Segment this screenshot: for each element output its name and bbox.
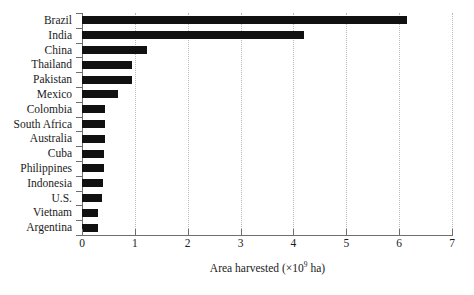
bar [82,224,98,232]
bar-row [82,43,452,58]
y-axis-label: Brazil [0,13,72,28]
y-axis-label: Vietnam [0,205,72,220]
y-axis-tick [76,57,82,58]
y-axis-category-labels: BrazilIndiaChinaThailandPakistanMexicoCo… [0,13,72,235]
y-axis-tick [76,13,82,14]
x-axis-tick-7 [452,229,453,236]
x-axis-tick-label-6: 6 [384,237,414,250]
bar-row [82,146,452,161]
x-axis-tick-6 [399,229,400,236]
bar-row [82,161,452,176]
x-axis-tick-label-0: 0 [67,237,97,250]
y-axis-label: Pakistan [0,72,72,87]
bar-row [82,117,452,132]
bar [82,135,105,143]
y-axis-tick [76,161,82,162]
bar [82,209,98,217]
y-axis-tick [76,117,82,118]
y-axis-label: Cuba [0,146,72,161]
bar [82,46,147,54]
bar [82,120,105,128]
x-axis-tick-3 [241,229,242,236]
bar [82,16,407,24]
y-axis-label: Argentina [0,220,72,235]
gridline-7 [452,13,453,235]
y-axis-tick [76,176,82,177]
y-axis-tick [76,131,82,132]
bar-row [82,131,452,146]
bar [82,31,304,39]
bar [82,179,103,187]
bar [82,61,132,69]
y-axis-label: Indonesia [0,176,72,191]
y-axis-label: U.S. [0,191,72,206]
y-axis-tick [76,43,82,44]
plot-area [82,13,452,235]
x-axis-tick-label-2: 2 [173,237,203,250]
bar-row [82,87,452,102]
bar-rows [82,13,452,235]
x-axis-tick-0 [82,229,83,236]
y-axis-tick [76,205,82,206]
x-axis-tick-1 [135,229,136,236]
y-axis-label: Colombia [0,102,72,117]
y-axis-tick [76,87,82,88]
y-axis-tick [76,191,82,192]
y-axis-tick [76,102,82,103]
y-axis-label: South Africa [0,117,72,132]
y-axis-tick [76,28,82,29]
y-axis-label: India [0,28,72,43]
bar [82,194,102,202]
bar-row [82,57,452,72]
y-axis-label: Australia [0,131,72,146]
y-axis-tick [76,72,82,73]
y-axis-label: China [0,43,72,58]
bar-row [82,191,452,206]
x-axis-tick-label-4: 4 [278,237,308,250]
x-axis-tick-4 [293,229,294,236]
y-axis-label: Philippines [0,161,72,176]
bar-row [82,28,452,43]
bar-row [82,176,452,191]
x-axis-tick-label-3: 3 [226,237,256,250]
bar-row [82,72,452,87]
bar [82,150,104,158]
x-axis-title-suffix: ha) [308,262,326,274]
y-axis-label: Mexico [0,87,72,102]
x-axis-tick-label-5: 5 [331,237,361,250]
x-axis-tick-2 [188,229,189,236]
x-axis-tick-label-1: 1 [120,237,150,250]
bar [82,105,105,113]
y-axis-tick [76,146,82,147]
y-axis-tick [76,220,82,221]
x-axis-line [82,235,453,236]
bar [82,90,118,98]
bar-chart: BrazilIndiaChinaThailandPakistanMexicoCo… [0,0,474,295]
x-axis-tick-5 [346,229,347,236]
x-axis-title-prefix: Area harvested (×10 [210,262,304,274]
bar-row [82,205,452,220]
bar [82,164,104,172]
y-axis-label: Thailand [0,57,72,72]
x-axis-tick-label-7: 7 [437,237,467,250]
bar [82,76,132,84]
bar-row [82,220,452,235]
bar-row [82,13,452,28]
x-axis-title: Area harvested (×109 ha) [82,262,453,274]
bar-row [82,102,452,117]
